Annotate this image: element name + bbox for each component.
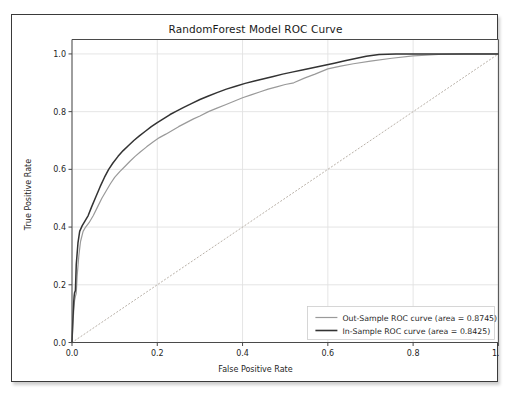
legend-label: In-Sample ROC curve (area = 0.8425) (342, 327, 490, 336)
y-tick-label: 0.4 (53, 223, 66, 232)
x-tick-label: 0.0 (66, 349, 79, 358)
roc-plot: 0.00.20.40.60.81.00.00.20.40.60.81.0Out-… (12, 15, 499, 383)
y-tick-label: 0.0 (53, 339, 66, 348)
legend-label: Out-Sample ROC curve (area = 0.8745) (342, 314, 497, 323)
screenshot-root: RandomForest Model ROC Curve False Posit… (0, 0, 510, 397)
chart-legend: Out-Sample ROC curve (area = 0.8745)In-S… (307, 307, 497, 340)
plot-wrapper: RandomForest Model ROC Curve False Posit… (12, 15, 499, 383)
x-tick-label: 0.8 (407, 349, 420, 358)
y-tick-label: 0.8 (53, 108, 66, 117)
x-tick-label: 0.2 (151, 349, 164, 358)
y-tick-label: 0.2 (53, 281, 66, 290)
figure-card: RandomForest Model ROC Curve False Posit… (11, 14, 498, 382)
y-tick-label: 0.6 (53, 165, 66, 174)
x-tick-label: 0.4 (236, 349, 249, 358)
x-tick-label: 1.0 (492, 349, 499, 358)
x-tick-label: 0.6 (321, 349, 334, 358)
y-tick-label: 1.0 (53, 50, 66, 59)
